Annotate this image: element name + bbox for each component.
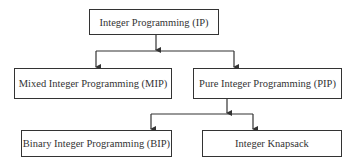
node-label: Binary Integer Programming (BIP) [23,138,170,149]
node-binary-integer-programming: Binary Integer Programming (BIP) [21,130,172,157]
node-integer-knapsack: Integer Knapsack [202,130,342,157]
node-label: Integer Programming (IP) [99,17,208,28]
node-integer-programming: Integer Programming (IP) [89,9,219,35]
node-label: Mixed Integer Programming (MIP) [19,78,167,89]
node-label: Pure Integer Programming (PIP) [199,78,336,89]
node-mixed-integer-programming: Mixed Integer Programming (MIP) [14,68,172,99]
node-pure-integer-programming: Pure Integer Programming (PIP) [193,68,342,99]
node-label: Integer Knapsack [235,138,309,149]
